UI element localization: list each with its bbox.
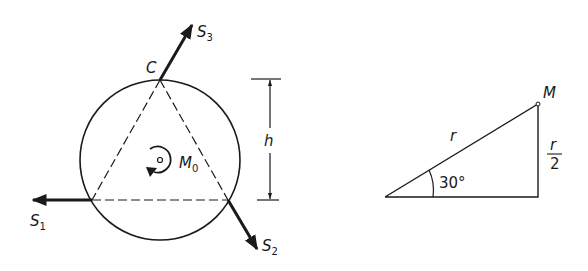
diagram-canvas: S1 S2 S3 C M0 h M r 30° r [0,0,588,271]
point-m-icon [536,102,540,106]
disk-figure: S1 S2 S3 C M0 h [30,23,281,257]
fraction-numerator: r [550,136,557,154]
dashed-triangle [92,80,228,200]
fraction-denominator: 2 [550,155,560,173]
point-m-label: M [543,84,556,102]
height-label: h [264,132,274,150]
moment-label: M0 [179,154,198,174]
force-s2-arrow [228,200,257,249]
point-c-label: C [146,59,157,77]
angle-arc [429,170,433,197]
disk-circle [80,80,240,240]
triangle-figure: M r 30° r 2 [385,84,562,197]
force-s1-label: S1 [30,212,46,232]
force-s3-label: S3 [197,23,213,43]
angle-label: 30° [439,174,466,192]
force-s2-label: S2 [262,237,278,257]
force-s3-arrow [160,25,192,80]
center-point-icon [158,158,163,163]
hypotenuse-label: r [450,127,457,145]
